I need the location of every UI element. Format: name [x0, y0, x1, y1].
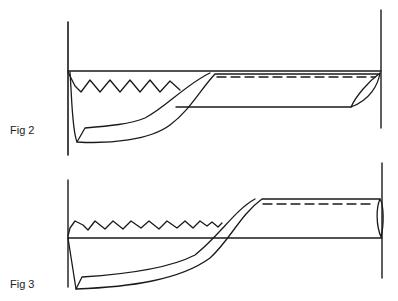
fig2-drawing — [68, 10, 381, 155]
fig3-drawing — [68, 163, 383, 289]
fig3-bent-rod-inner — [76, 199, 255, 289]
diagram-canvas — [0, 0, 398, 301]
fig3-zigzag — [68, 221, 222, 236]
fig3-bent-rod-outer — [68, 199, 380, 289]
fig2-zigzag — [68, 72, 180, 92]
fig2-rod-end — [351, 73, 380, 107]
